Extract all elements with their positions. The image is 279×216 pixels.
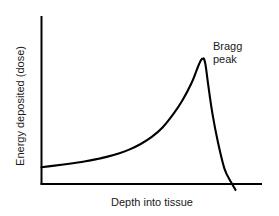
y-axis-label: Energy deposited (dose) xyxy=(14,24,26,188)
bragg-peak-chart: Energy deposited (dose) Depth into tissu… xyxy=(0,0,279,216)
x-axis-label: Depth into tissue xyxy=(41,196,263,208)
chart-plot-area xyxy=(0,0,279,216)
y-axis-label-container: Energy deposited (dose) xyxy=(0,0,40,190)
dose-depth-curve xyxy=(42,58,236,190)
bragg-peak-annotation-line1: Bragg xyxy=(213,40,242,53)
bragg-peak-annotation-line2: peak xyxy=(213,53,242,66)
bragg-peak-annotation: Bragg peak xyxy=(213,40,242,65)
